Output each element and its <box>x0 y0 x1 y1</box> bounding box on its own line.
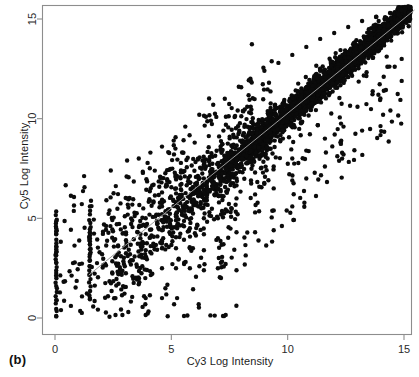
x-axis-label: Cy3 Log Intensity <box>130 355 330 367</box>
x-tick-label: 5 <box>168 343 174 355</box>
y-axis-label: Cy5 Log Intensity <box>18 86 30 246</box>
x-tick-label: 10 <box>282 343 294 355</box>
data-points <box>53 4 412 319</box>
scatter-plot: 051015051015 <box>0 0 419 377</box>
y-tick-label: 15 <box>26 13 38 25</box>
y-tick-label: 0 <box>26 315 38 321</box>
figure-panel: 051015051015 Cy5 Log Intensity Cy3 Log I… <box>0 0 419 377</box>
x-tick-label: 15 <box>398 343 410 355</box>
reference-line <box>89 10 415 275</box>
x-tick-label: 0 <box>52 343 58 355</box>
panel-caption: (b) <box>9 352 26 367</box>
